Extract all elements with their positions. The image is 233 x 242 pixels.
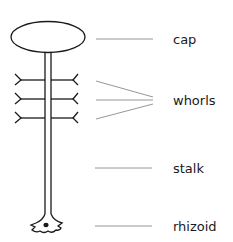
stalk-shape bbox=[45, 52, 51, 214]
rhizoid-shape bbox=[31, 214, 62, 233]
whorls-shape bbox=[15, 74, 78, 123]
nucleus-dot bbox=[43, 223, 48, 227]
whorl-3 bbox=[15, 112, 78, 123]
cap-shape bbox=[11, 22, 85, 53]
whorl-leader-1 bbox=[96, 81, 153, 97]
rhizoid-label: rhizoid bbox=[173, 219, 217, 234]
cap-label: cap bbox=[173, 32, 196, 47]
stalk-label: stalk bbox=[173, 161, 204, 176]
whorl-leader-3 bbox=[96, 104, 153, 119]
acetabularia-diagram: cap whorls stalk rhizoid bbox=[0, 0, 233, 242]
leader-lines bbox=[95, 39, 153, 226]
whorl-2 bbox=[15, 93, 78, 104]
whorl-1 bbox=[15, 74, 78, 85]
whorls-label: whorls bbox=[173, 93, 216, 108]
